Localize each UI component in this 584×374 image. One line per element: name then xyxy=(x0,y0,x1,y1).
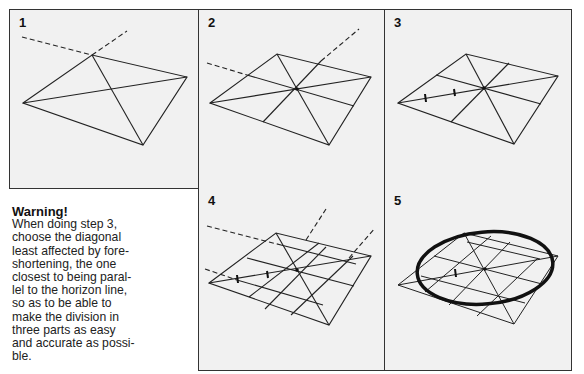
panel-step-3: 3 xyxy=(384,9,572,189)
warning-line: least affected by fore- xyxy=(12,245,192,258)
step-3-drawing xyxy=(385,10,573,190)
panel-step-5: 5 xyxy=(384,188,572,371)
step-5-drawing xyxy=(385,188,573,371)
panel-step-1: 1 xyxy=(9,9,198,189)
warning-line: make the division in xyxy=(12,311,192,324)
step-2-drawing xyxy=(199,10,385,190)
warning-note: Warning! When doing step 3, choose the d… xyxy=(12,205,192,363)
step-1-drawing xyxy=(10,10,199,190)
panel-step-2: 2 xyxy=(198,9,384,189)
warning-line: so as to be able to xyxy=(12,297,192,310)
warning-line: ble. xyxy=(12,350,192,363)
warning-line: and accurate as possi- xyxy=(12,337,192,350)
panel-step-4: 4 xyxy=(198,188,384,371)
step-4-drawing xyxy=(199,188,385,371)
warning-line: choose the diagonal xyxy=(12,231,192,244)
